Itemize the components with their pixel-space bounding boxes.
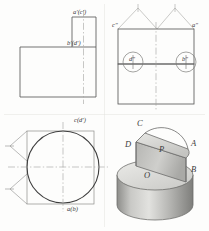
detail-ticks [133,55,186,69]
front-view [20,10,96,104]
label-b-double-prime: b″ [182,56,188,63]
label-d-double-prime: d″ [129,56,135,63]
label-c-double-prime: c″ [112,22,118,29]
label-a-double-prime: a″ [192,22,198,29]
top-view [5,122,108,212]
label-point-C: C [137,119,143,128]
drawing-canvas [0,0,209,231]
label-point-A: A [191,139,196,148]
label-point-B: B [191,165,196,174]
label-a-b: a(b) [67,206,78,213]
label-b-prime-d-prime: b'(d') [67,40,81,47]
label-c-d: c(d') [74,117,86,124]
label-center-O: O [144,171,150,180]
label-plane-P: P [159,145,164,154]
label-point-D: D [125,140,131,149]
top-view-arrow-marks [5,131,27,204]
label-a-prime-c-prime: a'(c') [73,9,86,16]
drawing-sheet: a'(c') b'(d') c″ a″ d″ b″ c(d') a(b) C A… [0,0,209,231]
front-view-outline [20,17,96,97]
